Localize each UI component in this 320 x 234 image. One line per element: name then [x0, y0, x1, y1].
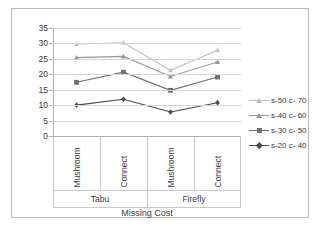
y-axis-tick-label: 30: [39, 39, 48, 48]
data-point: [121, 96, 126, 102]
legend-marker-icon: [256, 98, 262, 103]
y-axis-tick-label: 0: [43, 132, 48, 141]
y-axis-tick: [49, 90, 53, 91]
gridline: [53, 43, 241, 44]
legend-label: s-40 c- 60: [271, 112, 307, 120]
category-label: Connect: [119, 155, 128, 187]
data-point: [215, 59, 220, 64]
y-axis-tick-label: 10: [39, 101, 48, 110]
chart-legend: s-50 c- 70s-40 c- 60s-30 c- 50s-20 c- 40: [249, 93, 320, 153]
group-separator: [240, 191, 241, 207]
gridline: [53, 121, 241, 122]
y-axis-tick: [49, 28, 53, 29]
category-tick-4: Connect: [194, 137, 241, 190]
gridline: [53, 74, 241, 75]
legend-key-icon: [249, 111, 269, 120]
legend-marker-icon: [257, 128, 262, 133]
category-axis-band: MushroomConnectMushroomConnect: [53, 136, 241, 191]
category-tick-3: Mushroom: [147, 137, 194, 190]
legend-item-2[interactable]: s-40 c- 60: [249, 108, 320, 123]
category-tick-2: Connect: [100, 137, 147, 190]
group-separator: [147, 191, 148, 207]
category-separator: [100, 137, 101, 190]
plot-area: [53, 28, 241, 136]
y-axis-tick: [49, 43, 53, 44]
chart-frame: 35302520151050 MushroomConnectMushroomCo…: [11, 8, 309, 218]
y-axis-tick-label: 15: [39, 85, 48, 94]
y-axis-tick: [49, 74, 53, 75]
y-axis-tick-label: 20: [39, 70, 48, 79]
group-label-1: Tabu: [53, 191, 147, 207]
legend-key-icon: [249, 126, 269, 135]
y-axis-tick-label: 35: [39, 24, 48, 33]
legend-item-3[interactable]: s-30 c- 50: [249, 123, 320, 138]
group-label-2: Firefly: [147, 191, 241, 207]
y-axis-tick-label: 25: [39, 55, 48, 64]
data-point: [74, 80, 79, 85]
data-point: [215, 48, 220, 53]
gridline: [53, 59, 241, 60]
category-separator: [147, 137, 148, 190]
y-axis-tick-labels: 35302520151050: [26, 28, 48, 136]
legend-key-icon: [249, 141, 269, 150]
group-axis-band: TabuFirefly: [53, 191, 241, 208]
gridline: [53, 90, 241, 91]
gridline: [53, 28, 241, 29]
legend-item-4[interactable]: s-20 c- 40: [249, 138, 320, 153]
legend-item-1[interactable]: s-50 c- 70: [249, 93, 320, 108]
legend-label: s-20 c- 40: [271, 142, 307, 150]
category-separator: [240, 137, 241, 190]
legend-label: s-30 c- 50: [271, 127, 307, 135]
y-axis-tick: [49, 121, 53, 122]
category-tick-1: Mushroom: [53, 137, 100, 190]
category-label: Mushroom: [72, 147, 81, 187]
group-separator: [53, 191, 54, 207]
legend-marker-icon: [256, 113, 262, 118]
category-label: Mushroom: [166, 147, 175, 187]
data-point: [168, 109, 173, 115]
category-separator: [53, 137, 54, 190]
y-axis-tick: [49, 59, 53, 60]
x-axis-title: Missing Cost: [53, 208, 241, 219]
legend-key-icon: [249, 96, 269, 105]
y-axis-tick: [49, 105, 53, 106]
legend-label: s-50 c- 70: [271, 97, 307, 105]
category-label: Connect: [213, 155, 222, 187]
y-axis-tick-label: 5: [43, 116, 48, 125]
legend-marker-icon: [256, 142, 262, 148]
gridline: [53, 105, 241, 106]
category-separator: [194, 137, 195, 190]
data-point: [215, 75, 220, 80]
